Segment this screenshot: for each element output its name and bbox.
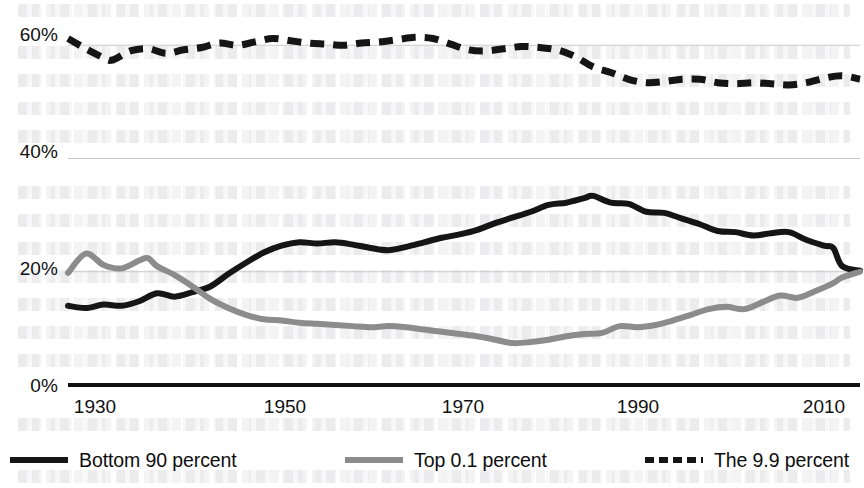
series-line-bottom-90-percent	[68, 196, 860, 308]
legend-label-top-0-1: Top 0.1 percent	[414, 449, 547, 472]
line-solid-gray-swatch	[345, 452, 403, 468]
plot-area	[0, 0, 864, 400]
line-solid-dark-swatch	[10, 452, 68, 468]
income-share-line-chart: 60% 40% 20% 0% 1930 1950 1970 1990 2010	[0, 0, 864, 488]
legend-item-the-9-9: The 9.9 percent	[645, 440, 849, 480]
series-line-the-9-9-percent	[68, 37, 860, 85]
legend-item-top-0-1: Top 0.1 percent	[345, 440, 547, 480]
series-layer	[68, 37, 860, 343]
chart-legend: Bottom 90 percent Top 0.1 percent The 9.…	[0, 440, 864, 480]
legend-item-bottom-90: Bottom 90 percent	[10, 440, 237, 480]
line-dashed-dark-swatch	[645, 452, 703, 468]
gridlines	[68, 45, 860, 271]
series-line-top-0-1-percent	[68, 254, 860, 344]
legend-label-the-9-9: The 9.9 percent	[714, 449, 849, 472]
legend-label-bottom-90: Bottom 90 percent	[79, 449, 237, 472]
